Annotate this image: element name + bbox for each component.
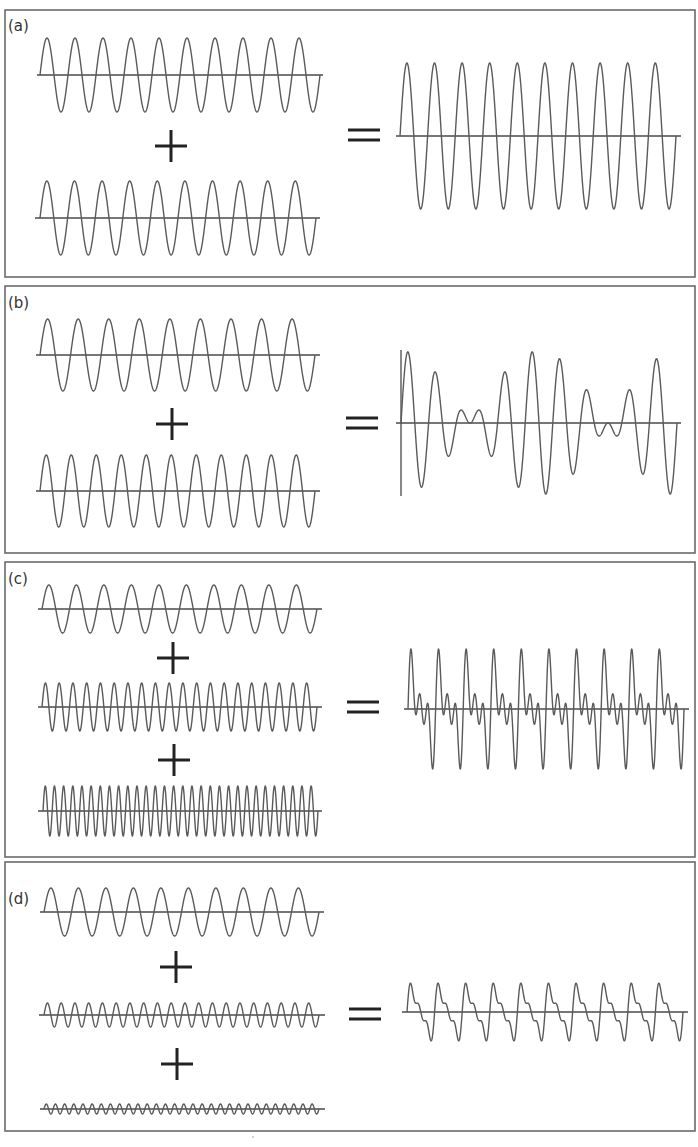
superposition-figure: (a)(b)(c)(d) — [0, 0, 698, 1147]
panel-label: (a) — [8, 17, 29, 35]
panel-b: (b) — [5, 286, 695, 553]
panel-label: (d) — [8, 890, 29, 908]
panel-border — [5, 862, 695, 1131]
panel-d: (d) — [5, 862, 695, 1131]
panels: (a)(b)(c)(d) — [5, 10, 695, 1131]
panel-c: (c) — [5, 562, 695, 857]
panel-label: (b) — [8, 294, 29, 312]
speck — [252, 1136, 254, 1138]
panel-a: (a) — [5, 10, 695, 277]
panel-border — [5, 10, 695, 277]
panel-label: (c) — [8, 570, 28, 588]
